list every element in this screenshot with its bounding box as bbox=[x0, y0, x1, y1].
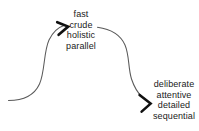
diagram-canvas: fast crude holistic parallel deliberate … bbox=[0, 0, 199, 131]
slow-path-label-line-4: sequential bbox=[149, 111, 199, 122]
fast-path-label-line-3: holistic bbox=[56, 30, 106, 41]
slow-path-label: deliberate attentive detailed sequential bbox=[149, 79, 199, 121]
fast-path-label-line-1: fast bbox=[56, 9, 106, 20]
slow-path-label-line-1: deliberate bbox=[149, 79, 199, 90]
fast-path-label-line-2: crude bbox=[56, 20, 106, 31]
slow-path-label-line-2: attentive bbox=[149, 90, 199, 101]
fast-path-label: fast crude holistic parallel bbox=[56, 9, 106, 51]
slow-path-label-line-3: detailed bbox=[149, 100, 199, 111]
fast-path-label-line-4: parallel bbox=[56, 41, 106, 52]
